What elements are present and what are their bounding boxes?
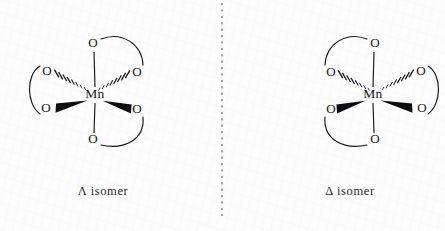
arc-lambda-bottom-right: [101, 117, 143, 146]
bond-lambda-lower-right-wedge: [103, 101, 132, 114]
bond-delta-upper-right-hashed: [382, 70, 413, 90]
atom-delta-o-lower-right: O: [417, 100, 426, 115]
bond-lambda-bottom-plain: [94, 103, 95, 133]
caption-delta-isomer: Δ isomer: [325, 184, 375, 198]
bond-lambda-lower-left-wedge: [56, 101, 88, 113]
atom-delta-o-upper-right: O: [416, 63, 425, 78]
arc-delta-bottom-left: [325, 117, 367, 146]
atom-lambda-o-lower-right: O: [132, 101, 141, 116]
bond-delta-lower-right-wedge: [381, 101, 413, 113]
structure-delta: O O O O O O Mn: [325, 35, 439, 146]
arc-delta-top-left: [325, 37, 367, 65]
structure-lambda: O O O O O O Mn: [30, 35, 144, 146]
atom-delta-mn-center: Mn: [363, 86, 383, 101]
atom-lambda-o-upper-right: O: [132, 64, 141, 79]
bond-lambda-upper-left-hashed: [54, 70, 85, 90]
bond-delta-top-plain: [373, 52, 374, 87]
arc-lambda-top-right: [101, 37, 143, 65]
bond-lambda-top-plain: [94, 52, 95, 87]
caption-lambda-isomer: Λ isomer: [78, 184, 129, 198]
atom-delta-o-bottom: O: [370, 131, 379, 146]
atom-delta-o-top: O: [370, 35, 379, 50]
bond-delta-bottom-plain: [373, 103, 374, 133]
atom-delta-o-lower-left: O: [326, 101, 335, 116]
atom-lambda-mn-center: Mn: [85, 86, 105, 101]
figure-root: O O O O O O Mn: [0, 0, 445, 231]
atom-delta-o-upper-left: O: [326, 64, 335, 79]
isomer-pair-diagram: O O O O O O Mn: [0, 0, 445, 231]
arc-lambda-left: [30, 66, 41, 114]
arc-delta-right: [428, 66, 439, 114]
atom-lambda-o-top: O: [88, 35, 97, 50]
atom-lambda-o-upper-left: O: [42, 63, 51, 78]
atom-lambda-o-bottom: O: [88, 131, 97, 146]
atom-lambda-o-lower-left: O: [41, 100, 50, 115]
bond-delta-lower-left-wedge: [337, 101, 366, 114]
